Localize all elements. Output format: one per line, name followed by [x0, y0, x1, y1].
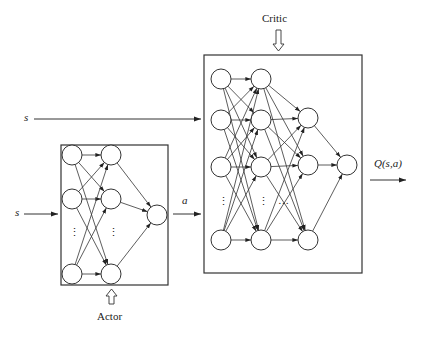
critic-edge	[271, 118, 298, 119]
actor-pointer-icon	[106, 289, 117, 304]
actor-edge	[117, 223, 151, 266]
actor-neuron-layer-1	[62, 189, 82, 209]
actor-neuron-layer-1	[62, 264, 82, 284]
critic-neuron-layer-3	[298, 155, 318, 175]
critic-neuron-layer-4	[337, 155, 357, 175]
actor-ellipsis-col1: ⋮	[69, 226, 80, 239]
critic-label: Critic	[262, 12, 287, 24]
critic-neuron-layer-1	[211, 69, 231, 89]
critic-edge	[271, 165, 298, 166]
critic-neuron-layer-1	[211, 110, 231, 130]
actor-neuron-layer-2	[101, 189, 121, 209]
critic-ellipsis-col2: ⋮	[258, 195, 269, 208]
critic-ellipsis-col3: …	[278, 194, 289, 206]
critic-pointer-icon	[273, 30, 284, 51]
critic-neuron-layer-2	[251, 157, 271, 177]
actor-neuron-layer-1	[62, 145, 82, 165]
actor-critic-diagram	[0, 0, 421, 340]
actor-label: Actor	[97, 310, 122, 322]
q-value-label: Q(s,a)	[374, 157, 402, 169]
actor-neuron-layer-3	[147, 205, 167, 225]
critic-neuron-layer-3	[298, 108, 318, 128]
critic-edge	[264, 89, 305, 231]
actor-neuron-layer-2	[101, 145, 121, 165]
actor-ellipsis-col2: ⋮	[108, 226, 119, 239]
state-label-actor: s	[15, 206, 19, 218]
critic-neuron-layer-1	[211, 230, 231, 250]
critic-neuron-layer-2	[251, 230, 271, 250]
actor-edge	[120, 202, 147, 211]
actor-neuron-layer-2	[101, 264, 121, 284]
critic-edge	[314, 126, 340, 158]
critic-neuron-layer-2	[251, 110, 271, 130]
action-label: a	[182, 194, 188, 206]
critic-neuron-layer-1	[211, 157, 231, 177]
actor-edge	[117, 163, 151, 207]
state-label-top: s	[24, 111, 28, 123]
critic-neuron-layer-2	[251, 69, 271, 89]
critic-edge	[313, 174, 343, 231]
critic-ellipsis-col1: ⋮	[218, 195, 229, 208]
critic-edge	[269, 85, 301, 111]
critic-neuron-layer-3	[298, 230, 318, 250]
